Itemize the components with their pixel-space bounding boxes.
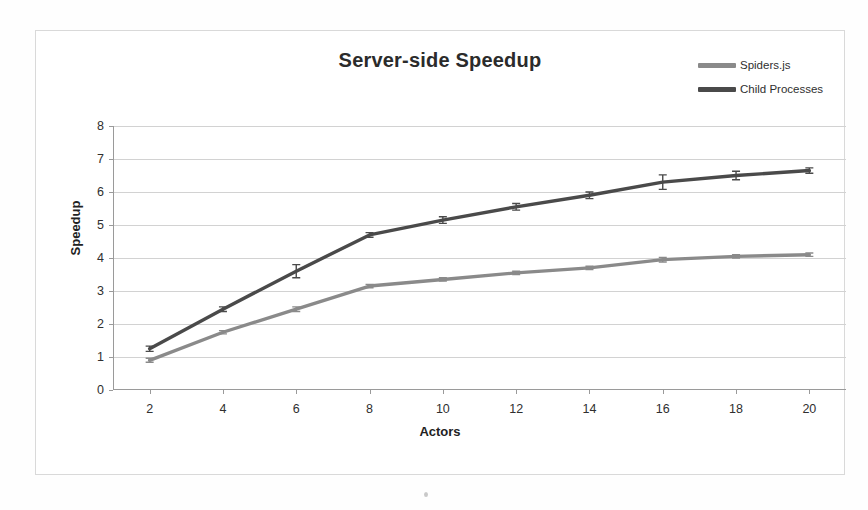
x-tick-label: 14 <box>582 402 596 416</box>
y-tick-label: 5 <box>97 218 104 232</box>
chart-figure: Server-side Speedup Spiders.js Child Pro… <box>35 30 845 475</box>
series-line <box>150 171 810 349</box>
legend-label-child-processes: Child Processes <box>740 83 823 95</box>
x-tick-mark <box>223 390 224 394</box>
x-tick-label: 18 <box>729 402 743 416</box>
x-tick-mark <box>663 390 664 394</box>
x-tick-label: 20 <box>802 402 816 416</box>
x-tick-label: 12 <box>509 402 523 416</box>
x-tick-mark <box>443 390 444 394</box>
x-tick-mark <box>736 390 737 394</box>
plot-area: 012345678 2468101214161820 <box>113 126 846 390</box>
legend-item-child-processes: Child Processes <box>698 82 838 96</box>
x-tick-mark <box>516 390 517 394</box>
x-tick-label: 4 <box>219 402 226 416</box>
legend-label-spiders: Spiders.js <box>740 59 791 71</box>
y-tick-label: 0 <box>97 383 104 397</box>
x-tick-mark <box>370 390 371 394</box>
x-tick-label: 8 <box>366 402 373 416</box>
y-axis-label: Speedup <box>68 201 83 256</box>
x-tick-mark <box>296 390 297 394</box>
y-tick-label: 3 <box>97 284 104 298</box>
y-tick-label: 7 <box>97 152 104 166</box>
series-line <box>150 255 810 361</box>
y-tick-label: 1 <box>97 350 104 364</box>
series-spiders <box>146 253 814 362</box>
y-tick-label: 2 <box>97 317 104 331</box>
y-tick-label: 4 <box>97 251 104 265</box>
x-tick-mark <box>809 390 810 394</box>
scan-artifact-speck <box>424 492 428 497</box>
x-tick-mark <box>589 390 590 394</box>
y-tick-mark <box>109 390 113 391</box>
legend-swatch-child-processes <box>698 87 736 92</box>
legend-swatch-spiders <box>698 63 736 68</box>
legend-item-spiders: Spiders.js <box>698 58 838 72</box>
x-tick-label: 2 <box>146 402 153 416</box>
x-axis-label: Actors <box>36 424 844 439</box>
y-tick-label: 6 <box>97 185 104 199</box>
y-tick-label: 8 <box>97 119 104 133</box>
chart-legend: Spiders.js Child Processes <box>698 58 838 106</box>
x-tick-mark <box>150 390 151 394</box>
x-tick-label: 10 <box>436 402 450 416</box>
x-tick-label: 6 <box>293 402 300 416</box>
x-tick-label: 16 <box>656 402 670 416</box>
series-layer <box>113 126 846 390</box>
